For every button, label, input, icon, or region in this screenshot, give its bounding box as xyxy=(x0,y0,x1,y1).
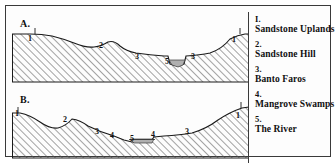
legend-item-4: 4. Mangrove Swamps xyxy=(255,89,336,110)
panel-b-cross-section xyxy=(12,87,249,163)
panel-b-ground-fill xyxy=(12,107,249,158)
legend-item-5-number: 5. xyxy=(255,114,336,124)
legend-item-2-number: 2. xyxy=(255,39,336,49)
panel-a-callout-3-left: 3 xyxy=(135,53,139,61)
legend-item-5: 5. The River xyxy=(255,114,336,135)
legend-item-1-label: Sandstone Uplands xyxy=(255,24,336,35)
legend-item-4-number: 4. xyxy=(255,89,336,99)
panel-a-callout-2: 2 xyxy=(99,42,103,50)
legend-item-4-label: Mangrove Swamps xyxy=(255,99,336,110)
legend-item-3: 3. Banto Faros xyxy=(255,64,336,85)
figure-root: A. 1 2 3 5 3 1 xyxy=(0,0,336,166)
panel-a-cross-section xyxy=(12,12,249,87)
panel-a-ground-fill xyxy=(12,34,249,82)
legend-item-5-label: The River xyxy=(255,124,336,135)
legend-item-1-number: I. xyxy=(255,14,336,24)
panel-b-callout-3-left: 3 xyxy=(95,128,99,136)
panel-b-callout-1-right: 1 xyxy=(236,112,240,120)
legend-item-3-label: Banto Faros xyxy=(255,74,336,85)
legend-item-3-number: 3. xyxy=(255,64,336,74)
panel-b-letter: B. xyxy=(20,94,30,105)
panel-b-callout-4-left: 4 xyxy=(110,132,114,140)
legend-item-2-label: Sandstone Hill xyxy=(255,49,336,60)
legend-divider xyxy=(248,12,249,163)
panel-a-callout-5: 5 xyxy=(165,58,169,66)
panel-b-callout-2: 2 xyxy=(63,116,67,124)
legend: I. Sandstone Uplands 2. Sandstone Hill 3… xyxy=(255,14,336,160)
panel-a: A. xyxy=(12,12,249,87)
panel-b-callout-1-left: 1 xyxy=(15,110,19,118)
panel-b-callout-3-right: 3 xyxy=(185,128,189,136)
panel-a-letter: A. xyxy=(20,18,30,29)
panel-a-callout-1-left: 1 xyxy=(28,35,32,43)
panel-a-callout-1-right: 1 xyxy=(232,36,236,44)
panel-b-callout-4-right: 4 xyxy=(151,131,155,139)
legend-item-2: 2. Sandstone Hill xyxy=(255,39,336,60)
panel-b: B. xyxy=(12,87,249,163)
figure-frame: A. 1 2 3 5 3 1 xyxy=(5,5,331,157)
legend-item-1: I. Sandstone Uplands xyxy=(255,14,336,35)
panel-b-callout-5: 5 xyxy=(130,135,134,143)
panel-a-callout-3-right: 3 xyxy=(191,53,195,61)
